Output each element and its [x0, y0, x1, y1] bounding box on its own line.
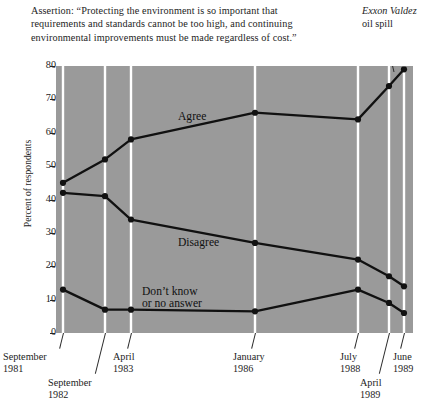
series-line-2 — [63, 290, 404, 313]
data-point-1-2[interactable] — [128, 216, 134, 222]
annotation-title-rest: oil spill — [362, 18, 393, 29]
x-tick-leader-3 — [251, 333, 256, 349]
x-tick-label-1: September1982 — [48, 377, 92, 402]
data-point-1-5[interactable] — [386, 273, 392, 279]
y-tick-label-70: 70 — [22, 92, 56, 103]
series-line-0 — [63, 69, 404, 182]
x-tick-label-1-month: September — [48, 377, 92, 389]
y-tick-label-10: 10 — [22, 293, 56, 304]
annotation-title-italic: Exxon Valdez — [362, 5, 417, 16]
x-tick-label-0-year: 1981 — [3, 363, 47, 375]
y-tick-mark-50 — [50, 166, 55, 167]
x-tick-label-2-year: 1983 — [113, 363, 135, 375]
assertion-caption: Assertion: “Protecting the environment i… — [31, 4, 331, 44]
data-point-0-1[interactable] — [102, 156, 108, 162]
data-point-2-0[interactable] — [60, 287, 66, 293]
y-tick-label-60: 60 — [22, 126, 56, 137]
x-tick-leader-2 — [127, 333, 132, 349]
y-tick-mark-10 — [50, 300, 55, 301]
x-tick-label-4-month: July — [340, 351, 360, 363]
y-tick-mark-30 — [50, 233, 55, 234]
data-point-1-0[interactable] — [60, 190, 66, 196]
data-point-2-2[interactable] — [128, 307, 134, 313]
x-tick-label-6-year: 1989 — [393, 363, 413, 375]
series-label-dontknow-line2: or no answer — [142, 297, 202, 310]
y-tick-label-80: 80 — [22, 59, 56, 70]
y-tick-label-20: 20 — [22, 259, 56, 270]
data-point-1-4[interactable] — [355, 256, 361, 262]
series-line-1 — [63, 193, 404, 286]
annotation-leader-line — [378, 66, 394, 72]
x-tick-label-4-year: 1988 — [340, 363, 360, 375]
data-point-2-1[interactable] — [102, 307, 108, 313]
x-tick-leader-1 — [95, 333, 106, 374]
x-tick-leader-5 — [379, 333, 390, 374]
series-label-agree: Agree — [178, 110, 206, 123]
x-tick-label-0: September1981 — [3, 351, 47, 376]
x-tick-leader-6 — [400, 333, 405, 349]
data-point-0-3[interactable] — [252, 110, 258, 116]
data-point-0-6[interactable] — [401, 66, 407, 72]
plot-svg: AgreeDisagreeDon’t knowor no answer — [56, 66, 413, 333]
y-tick-mark-60 — [50, 133, 55, 134]
data-point-0-2[interactable] — [128, 136, 134, 142]
x-tick-label-3-year: 1986 — [233, 363, 265, 375]
x-tick-label-5-year: 1989 — [360, 389, 382, 401]
x-tick-label-5-month: April — [360, 377, 382, 389]
data-point-2-3[interactable] — [252, 308, 258, 314]
x-tick-label-6-month: June — [393, 351, 413, 363]
data-point-1-6[interactable] — [401, 283, 407, 289]
y-axis: 01020304050607080 — [0, 66, 56, 333]
y-tick-label-50: 50 — [22, 159, 56, 170]
data-point-2-4[interactable] — [355, 287, 361, 293]
y-tick-mark-70 — [50, 99, 55, 100]
x-tick-label-4: July1988 — [340, 351, 360, 376]
x-tick-label-5: April1989 — [360, 377, 382, 402]
x-tick-label-2-month: April — [113, 351, 135, 363]
y-tick-mark-20 — [50, 266, 55, 267]
y-tick-label-40: 40 — [22, 193, 56, 204]
x-axis-labels: September1981September1982April1983Janua… — [0, 333, 429, 411]
data-point-0-0[interactable] — [60, 180, 66, 186]
x-tick-label-3: January1986 — [233, 351, 265, 376]
exxon-valdez-annotation: Exxon Valdez oil spill — [362, 4, 428, 31]
x-tick-leader-0 — [59, 333, 64, 349]
series-label-disagree: Disagree — [178, 236, 219, 249]
x-tick-label-1-year: 1982 — [48, 389, 92, 401]
chart-figure: Assertion: “Protecting the environment i… — [0, 0, 429, 411]
data-point-1-1[interactable] — [102, 193, 108, 199]
plot-area: AgreeDisagreeDon’t knowor no answer — [56, 66, 413, 333]
data-point-2-6[interactable] — [401, 310, 407, 316]
x-tick-label-2: April1983 — [113, 351, 135, 376]
data-point-0-4[interactable] — [355, 116, 361, 122]
x-tick-label-3-month: January — [233, 351, 265, 363]
y-tick-label-30: 30 — [22, 226, 56, 237]
x-tick-label-0-month: September — [3, 351, 47, 363]
data-point-0-5[interactable] — [386, 83, 392, 89]
x-tick-leader-4 — [354, 333, 359, 349]
x-tick-label-6: June1989 — [393, 351, 413, 376]
data-point-2-5[interactable] — [386, 300, 392, 306]
y-tick-mark-80 — [50, 66, 55, 67]
data-point-1-3[interactable] — [252, 240, 258, 246]
y-tick-mark-40 — [50, 200, 55, 201]
